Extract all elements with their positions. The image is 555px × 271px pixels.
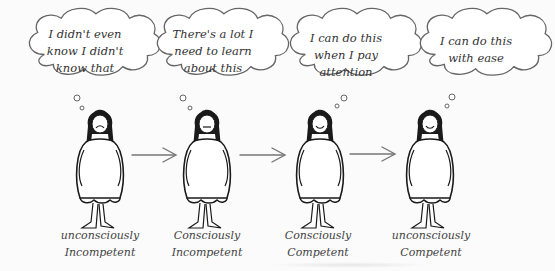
thought-line: There's a lot I bbox=[158, 26, 268, 43]
thought-text-3: I can do this when I pay attention bbox=[291, 30, 401, 81]
stage-label-2: Consciously Incompetent bbox=[152, 227, 262, 261]
thought-line: attention bbox=[291, 64, 401, 81]
label-line: Incompetent bbox=[152, 244, 262, 261]
thought-line: when I pay bbox=[291, 47, 401, 64]
label-line: Consciously bbox=[263, 227, 373, 244]
figure-unconsciously-competent bbox=[407, 110, 454, 228]
thought-line: I didn't even bbox=[30, 26, 140, 43]
thought-line: I can do this bbox=[291, 30, 401, 47]
label-line: unconsciously bbox=[376, 227, 486, 244]
figure-unconsciously-incompetent bbox=[77, 110, 124, 228]
figure-consciously-incompetent bbox=[184, 110, 231, 228]
figure-consciously-competent bbox=[297, 110, 344, 228]
label-line: Competent bbox=[376, 244, 486, 261]
stage-label-1: unconsciously Incompetent bbox=[45, 227, 155, 261]
thought-line: I can do this bbox=[421, 33, 531, 50]
thought-line: know I didn't bbox=[30, 43, 140, 60]
thought-line: know that bbox=[30, 60, 140, 77]
stage-label-3: Consciously Competent bbox=[263, 227, 373, 261]
paper-shadow bbox=[270, 262, 430, 268]
thought-text-4: I can do this with ease bbox=[421, 33, 531, 67]
thought-text-1: I didn't even know I didn't know that bbox=[30, 26, 140, 77]
stage-label-4: unconsciously Competent bbox=[376, 227, 486, 261]
thought-line: with ease bbox=[421, 50, 531, 67]
arrow-3-to-4 bbox=[350, 147, 395, 161]
thought-line: need to learn bbox=[158, 43, 268, 60]
thought-line: about this bbox=[158, 60, 268, 77]
label-line: Competent bbox=[263, 244, 373, 261]
label-line: Incompetent bbox=[45, 244, 155, 261]
thought-text-2: There's a lot I need to learn about this bbox=[158, 26, 268, 77]
arrow-2-to-3 bbox=[240, 148, 285, 162]
label-line: unconsciously bbox=[45, 227, 155, 244]
label-line: Consciously bbox=[152, 227, 262, 244]
arrow-1-to-2 bbox=[132, 148, 176, 162]
